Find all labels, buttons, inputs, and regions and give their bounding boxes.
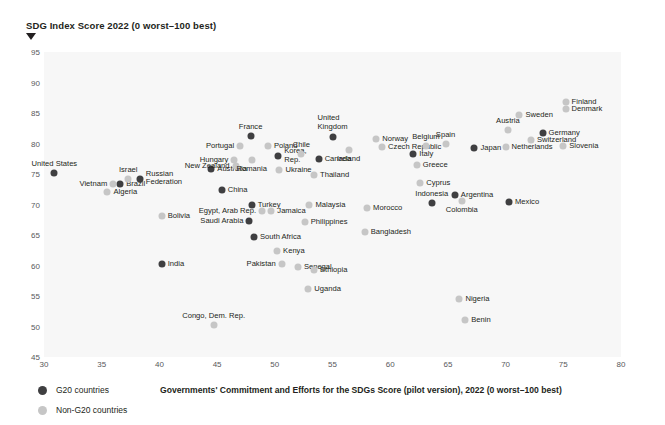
data-point-label: Saudi Arabia [200,217,243,226]
data-point [442,141,449,148]
data-point [456,296,463,303]
data-point [516,111,523,118]
data-point-label: Nigeria [465,295,489,304]
data-point [451,191,458,198]
x-tick-75: 75 [559,360,568,369]
data-point-label: Argentina [461,190,494,199]
data-point-label: Czech Republic [388,143,441,152]
legend-item-non-g20: Non-G20 countries [38,400,127,420]
data-point-label: Philippines [311,217,348,226]
legend-label-non-g20: Non-G20 countries [56,405,127,415]
x-tick-50: 50 [270,360,279,369]
data-point [210,322,217,329]
data-point [104,188,111,195]
data-point-label: Ethiopia [320,266,347,275]
data-point [136,175,143,182]
data-point [158,213,165,220]
legend-dot-g20-icon [38,386,47,395]
x-tick-30: 30 [40,360,49,369]
data-point [413,161,420,168]
data-point [329,134,336,141]
data-point [125,176,132,183]
data-point [504,127,511,134]
data-point-label: Ireland [337,154,360,163]
data-point [462,317,469,324]
data-point-label: Spain [436,131,455,140]
data-point [275,153,282,160]
data-point-label: Morocco [373,203,402,212]
y-tick-90: 90 [16,78,40,87]
data-point [502,143,509,150]
data-point [422,142,429,149]
legend-dot-non-g20-icon [38,406,47,415]
data-point-label: Sweden [525,111,552,120]
y-tick-45: 45 [16,353,40,362]
data-point-label: Bangladesh [371,228,411,237]
x-tick-60: 60 [386,360,395,369]
y-tick-60: 60 [16,261,40,270]
data-point-label: Jamaica [277,206,305,215]
data-point-label: New Zealand [185,162,230,171]
data-point [560,142,567,149]
data-point [278,260,285,267]
x-tick-35: 35 [97,360,106,369]
data-point-label: Kenya [283,247,305,256]
data-point-label: Thailand [320,170,349,179]
data-point [562,99,569,106]
y-tick-65: 65 [16,231,40,240]
x-axis-title: Governments' Commitment and Efforts for … [160,385,562,395]
data-point [428,200,435,207]
data-point-label: France [239,123,263,132]
data-point-label: Egypt, Arab Rep. [199,206,256,215]
x-tick-55: 55 [328,360,337,369]
data-point [274,248,281,255]
data-point-label: China [228,186,248,195]
data-point [268,207,275,214]
data-point [301,218,308,225]
plot-area: United StatesBrazilRussian FederationAus… [44,52,621,357]
y-tick-80: 80 [16,139,40,148]
data-point [246,217,253,224]
data-point [345,146,352,153]
data-point [276,167,283,174]
data-point [527,137,534,144]
data-point-label: Russian Federation [146,170,182,187]
data-point [315,156,322,163]
data-point-label: Japan [480,144,501,153]
data-point-label: Uganda [314,285,341,294]
x-tick-65: 65 [443,360,452,369]
data-point [379,144,386,151]
data-point [264,142,271,149]
data-point-label: Mexico [515,198,539,207]
data-point [248,156,255,163]
x-tick-80: 80 [617,360,626,369]
y-tick-50: 50 [16,322,40,331]
data-point-label: Indonesia [415,190,448,199]
data-point-label: Denmark [572,105,603,114]
y-tick-95: 95 [16,48,40,57]
scatter-chart: SDG Index Score 2022 (0 worst–100 best) … [0,0,665,425]
legend-item-g20: G20 countries [38,380,127,400]
data-point [361,228,368,235]
data-point [471,145,478,152]
chart-legend: G20 countries Non-G20 countries [38,380,127,420]
x-tick-70: 70 [501,360,510,369]
x-tick-40: 40 [155,360,164,369]
data-point-label: Colombia [446,206,478,215]
data-point [562,106,569,113]
data-point [251,234,258,241]
data-point [237,142,244,149]
data-point-label: Israel [119,166,138,175]
data-point [218,186,225,193]
data-point-label: Chile [293,141,310,150]
data-point [373,135,380,142]
y-tick-85: 85 [16,109,40,118]
data-point-label: Bolivia [168,212,190,221]
data-point-label: United States [32,159,78,168]
data-point [311,171,318,178]
data-point-label: Cyprus [426,179,450,188]
legend-label-g20: G20 countries [56,385,109,395]
data-point-label: Pakistan [247,259,276,268]
data-point-label: Slovenia [569,142,598,151]
data-point-label: Romania [237,165,267,174]
